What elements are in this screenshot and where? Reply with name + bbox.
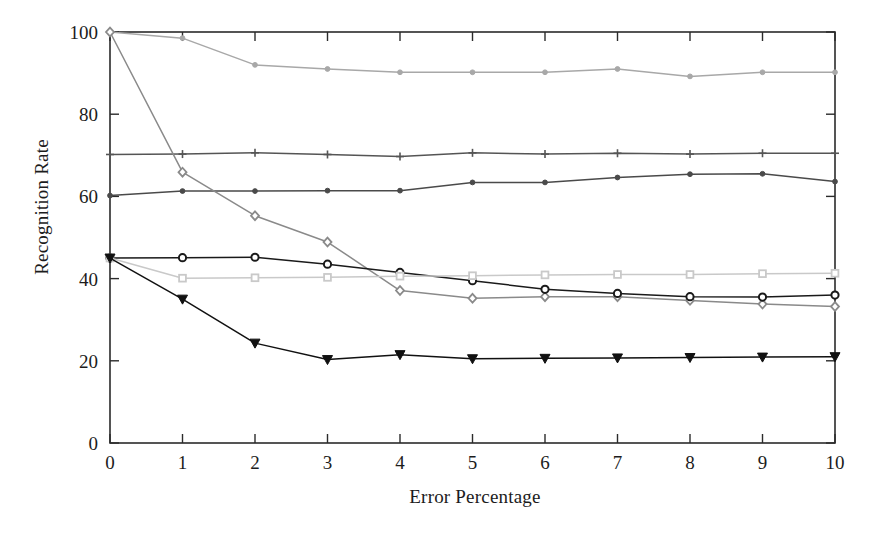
data-series-group bbox=[105, 28, 840, 365]
svg-text:3: 3 bbox=[323, 452, 333, 473]
svg-text:6: 6 bbox=[540, 452, 550, 473]
x-axis-label: Error Percentage bbox=[290, 486, 660, 508]
chart-plot-area: 012345678910020406080100 bbox=[0, 0, 890, 533]
series-dot-rising bbox=[108, 171, 838, 198]
svg-text:40: 40 bbox=[79, 269, 98, 290]
svg-text:1: 1 bbox=[178, 452, 188, 473]
svg-text:4: 4 bbox=[395, 452, 405, 473]
svg-text:0: 0 bbox=[105, 452, 115, 473]
svg-text:80: 80 bbox=[79, 104, 98, 125]
svg-text:8: 8 bbox=[685, 452, 695, 473]
series-plus-flat bbox=[106, 149, 839, 161]
axis-tick-labels: 012345678910020406080100 bbox=[70, 22, 845, 473]
svg-text:7: 7 bbox=[613, 452, 623, 473]
axis-ticks bbox=[110, 32, 835, 443]
svg-text:10: 10 bbox=[826, 452, 845, 473]
chart-figure: 012345678910020406080100 Recognition Rat… bbox=[0, 0, 890, 533]
svg-text:0: 0 bbox=[89, 433, 99, 454]
svg-text:2: 2 bbox=[250, 452, 260, 473]
axis-frame bbox=[110, 32, 835, 443]
svg-text:9: 9 bbox=[758, 452, 768, 473]
svg-text:60: 60 bbox=[79, 186, 98, 207]
svg-text:5: 5 bbox=[468, 452, 478, 473]
series-light-square bbox=[107, 255, 839, 282]
svg-text:100: 100 bbox=[70, 22, 99, 43]
svg-text:20: 20 bbox=[79, 351, 98, 372]
y-axis-label: Recognition Rate bbox=[31, 107, 53, 307]
series-triangle-low bbox=[105, 254, 840, 365]
